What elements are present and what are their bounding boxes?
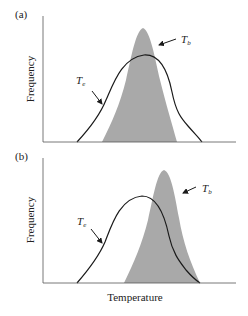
te-label-b: Te	[77, 215, 86, 229]
tb-label-b: Tb	[202, 182, 212, 196]
te-arrow-b	[91, 229, 102, 243]
te-label-a: Te	[76, 74, 85, 88]
tb-arrow-a	[159, 39, 176, 45]
tb-label-a: Tb	[181, 33, 191, 47]
x-axis-title-b: Temperature	[107, 291, 163, 303]
figure: (a) Frequency Te Tb (b) Frequency Temper…	[0, 0, 248, 316]
tb-area-b	[124, 170, 200, 283]
panel-b: (b) Frequency Temperature Te Tb	[15, 150, 236, 303]
y-axis-title-a: Frequency	[24, 55, 36, 102]
panel-a: (a) Frequency Te Tb	[15, 8, 236, 142]
tb-arrow-b	[183, 187, 196, 193]
panel-a-label: (a)	[15, 8, 28, 21]
panel-b-label: (b)	[15, 150, 28, 163]
y-axis-title-b: Frequency	[24, 196, 36, 243]
te-arrow-a	[92, 91, 102, 104]
